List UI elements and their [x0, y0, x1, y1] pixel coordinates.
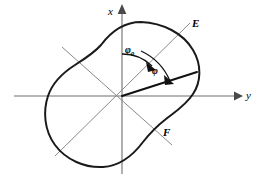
- radius-vector-line: [122, 72, 197, 96]
- point-f-label: F: [163, 127, 170, 138]
- phi-zero-subscript: 0: [131, 50, 135, 58]
- point-e-label: E: [192, 18, 199, 29]
- figure-canvas: [0, 0, 263, 181]
- x-axis-label: x: [108, 6, 113, 17]
- y-axis-arrowhead: [234, 92, 243, 101]
- radius-vector-group: [122, 72, 197, 96]
- x-axis-arrowhead: [118, 4, 127, 14]
- polar-curve-figure: x y E F φ0 φ: [0, 0, 263, 181]
- y-axis-label: y: [246, 90, 251, 101]
- phi-zero-label: φ0: [125, 45, 134, 58]
- axes-group: [14, 4, 243, 174]
- phi-label: φ: [152, 66, 158, 76]
